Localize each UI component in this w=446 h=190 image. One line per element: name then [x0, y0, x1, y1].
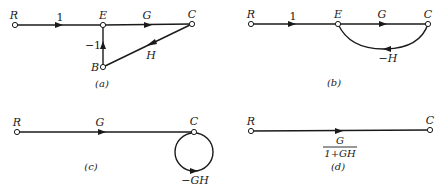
label-c-gain-g: G	[96, 116, 105, 129]
caption-a: (a)	[95, 78, 109, 89]
caption-b: (b)	[327, 77, 341, 88]
label-a-r: R	[9, 9, 18, 22]
label-b-c: C	[424, 8, 433, 21]
label-b-gain-minus-h: −H	[379, 52, 398, 65]
caption-c: (c)	[84, 161, 98, 172]
edge-c-self-loop	[175, 133, 213, 171]
label-a-gain-minus1: −1	[85, 39, 101, 52]
panel-d: R C G 1+GH (d)	[246, 114, 435, 172]
label-d-gain-denominator: 1+GH	[324, 148, 356, 159]
arrow-b-e-c	[379, 21, 387, 27]
label-a-gain-1: 1	[57, 11, 64, 24]
label-a-b: B	[90, 61, 99, 74]
node-a-b	[100, 64, 105, 69]
label-a-gain-g: G	[143, 9, 152, 22]
label-c-r: R	[12, 116, 21, 129]
label-b-gain-1: 1	[290, 10, 297, 23]
arrow-c-r-c	[98, 129, 106, 135]
node-b-r	[248, 21, 253, 26]
node-c-c	[191, 129, 196, 134]
node-d-r	[248, 128, 253, 133]
panel-b: R 1 E G C −H (b)	[246, 8, 433, 88]
label-c-c: C	[190, 115, 199, 128]
node-d-c	[427, 127, 432, 132]
panel-c: R G C −GH (c)	[12, 115, 213, 187]
label-b-r: R	[246, 8, 255, 21]
label-d-c: C	[426, 114, 435, 127]
arrow-a-c-b	[146, 39, 157, 46]
arrow-a-e-c	[144, 22, 152, 28]
node-b-e	[335, 21, 340, 26]
label-c-gain-minus-gh: −GH	[181, 174, 209, 187]
label-a-e: E	[98, 9, 107, 22]
node-a-c	[189, 21, 194, 26]
node-c-r	[14, 129, 19, 134]
label-d-r: R	[246, 115, 255, 128]
label-a-c: C	[188, 8, 197, 21]
label-a-gain-h: H	[145, 49, 156, 62]
node-b-c	[425, 21, 430, 26]
panel-a: R 1 E G C H −1 B (a)	[9, 8, 197, 89]
caption-d: (d)	[331, 161, 345, 172]
label-b-gain-g: G	[378, 8, 387, 21]
node-a-e	[100, 22, 105, 27]
node-a-r	[12, 22, 17, 27]
label-b-e: E	[333, 8, 342, 21]
signal-flow-diagrams: R 1 E G C H −1 B (a) R 1 E G C −H (b)	[0, 0, 446, 190]
edge-b-c-e	[338, 24, 428, 49]
label-d-gain-numerator: G	[336, 135, 344, 146]
arrow-d-r-c	[335, 128, 343, 134]
